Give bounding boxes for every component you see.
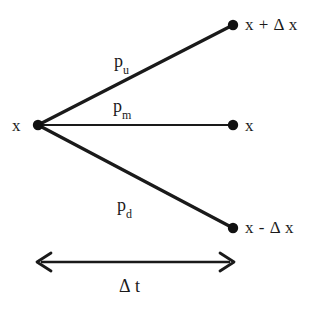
middle-node-dot [228,120,238,130]
branch-up-line [38,25,233,125]
probability-up-base: p [114,51,123,71]
probability-up-label: pu [114,52,129,74]
up-node-dot [228,20,238,30]
probability-middle-base: p [113,96,122,116]
middle-node-label: x [245,117,254,134]
probability-down-base: p [117,195,126,215]
up-node-label: x + Δ x [245,16,298,33]
down-node-label: x - Δ x [245,219,294,236]
origin-node-label: x [12,117,21,134]
probability-middle-subscript: m [122,108,131,122]
probability-down-label: pd [117,196,132,218]
probability-down-subscript: d [126,207,132,221]
time-span-label: Δ t [119,277,141,295]
tree-graphics [0,0,330,309]
probability-middle-label: pm [113,97,131,119]
branch-down-line [38,125,233,228]
probability-up-subscript: u [123,63,129,77]
trinomial-tree-diagram: x x + Δ x x x - Δ x pu pm pd Δ t [0,0,330,309]
down-node-dot [228,223,238,233]
origin-node-dot [33,120,43,130]
